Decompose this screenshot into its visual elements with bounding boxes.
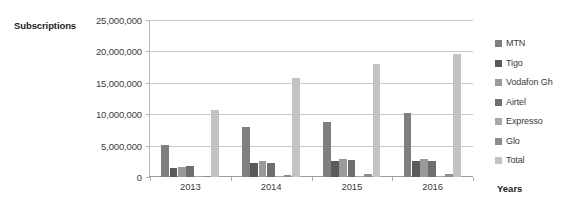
x-axis-title: Years (497, 183, 522, 194)
legend-item-vodafon-gh[interactable]: Vodafon Gh (495, 73, 581, 93)
bars-layer (150, 20, 473, 177)
bar-vodafon-gh-2014 (259, 161, 267, 177)
bar-airtel-2014 (267, 163, 275, 177)
bar-total-2013 (211, 110, 219, 177)
legend-item-mtn[interactable]: MTN (495, 34, 581, 54)
y-tick-mark (146, 20, 150, 21)
legend: MTNTigoVodafon GhAirtelExpressoGloTotal (495, 34, 581, 171)
legend-swatch-icon (495, 79, 502, 86)
legend-swatch-icon (495, 118, 502, 125)
y-tick-label: 25,000,000 (96, 15, 142, 26)
legend-swatch-icon (495, 157, 502, 164)
x-tick-label-2016: 2016 (422, 181, 443, 192)
x-tick-label-2014: 2014 (261, 181, 282, 192)
bar-tigo-2016 (412, 161, 420, 177)
y-tick-mark (146, 51, 150, 52)
legend-swatch-icon (495, 60, 502, 67)
bar-tigo-2014 (250, 163, 258, 177)
legend-item-tigo[interactable]: Tigo (495, 54, 581, 74)
legend-label: Glo (506, 137, 520, 146)
x-tick-label-2013: 2013 (180, 181, 201, 192)
legend-swatch-icon (495, 138, 502, 145)
bar-chart: Subscriptions 05,000,00010,000,00015,000… (0, 0, 581, 215)
bar-vodafon-gh-2015 (339, 159, 347, 177)
y-tick-mark (146, 83, 150, 84)
bar-mtn-2013 (161, 145, 169, 177)
y-tick-label: 5,000,000 (101, 140, 142, 151)
legend-label: Tigo (506, 59, 523, 68)
bar-glo-2013 (203, 176, 211, 177)
bar-expresso-2015 (356, 176, 364, 177)
bar-expresso-2016 (437, 176, 445, 177)
y-tick-label: 20,000,000 (96, 46, 142, 57)
bar-mtn-2014 (242, 127, 250, 177)
legend-label: MTN (506, 39, 525, 48)
legend-label: Vodafon Gh (506, 78, 553, 87)
bar-vodafon-gh-2016 (420, 159, 428, 177)
legend-item-airtel[interactable]: Airtel (495, 93, 581, 113)
legend-swatch-icon (495, 99, 502, 106)
bar-expresso-2013 (195, 176, 203, 177)
legend-swatch-icon (495, 40, 502, 47)
bar-glo-2016 (445, 174, 453, 177)
legend-label: Total (506, 156, 525, 165)
legend-item-expresso[interactable]: Expresso (495, 112, 581, 132)
legend-item-total[interactable]: Total (495, 151, 581, 171)
bar-total-2015 (373, 64, 381, 177)
y-tick-label: 10,000,000 (96, 109, 142, 120)
x-tick-label-2015: 2015 (342, 181, 363, 192)
legend-label: Airtel (506, 98, 526, 107)
bar-tigo-2015 (331, 161, 339, 177)
y-tick-mark (146, 114, 150, 115)
legend-label: Expresso (506, 117, 543, 126)
bar-mtn-2016 (404, 113, 412, 177)
plot-area (150, 20, 473, 177)
y-axis-tick-labels: 05,000,00010,000,00015,000,00020,000,000… (60, 0, 148, 215)
bar-mtn-2015 (323, 122, 331, 177)
y-tick-mark (146, 146, 150, 147)
bar-total-2016 (453, 54, 461, 177)
y-tick-label: 0 (137, 172, 142, 183)
bar-glo-2015 (364, 174, 372, 177)
x-axis-tick-labels: 2013201420152016 (150, 181, 473, 199)
bar-tigo-2013 (170, 168, 178, 177)
bar-vodafon-gh-2013 (178, 167, 186, 177)
x-tick-mark (473, 177, 474, 181)
legend-item-glo[interactable]: Glo (495, 132, 581, 152)
bar-airtel-2016 (428, 161, 436, 177)
bar-airtel-2013 (186, 166, 194, 177)
bar-total-2014 (292, 78, 300, 177)
bar-glo-2014 (284, 175, 292, 178)
y-tick-label: 15,000,000 (96, 77, 142, 88)
bar-airtel-2015 (348, 160, 356, 177)
bar-expresso-2014 (275, 176, 283, 177)
